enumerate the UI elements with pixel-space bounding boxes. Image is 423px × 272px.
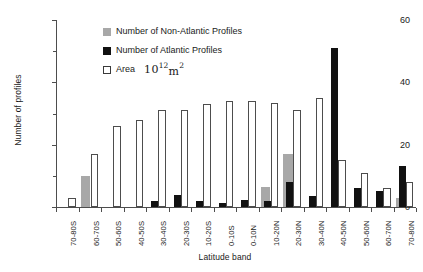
bar-band <box>283 20 301 207</box>
legend-label-nonatlantic: Number of Non-Atlantic Profiles <box>116 27 242 36</box>
y-tick <box>52 145 56 146</box>
bar-band <box>81 20 99 207</box>
bar-band <box>58 20 76 207</box>
bar-atlantic <box>196 201 203 207</box>
x-tick-label: 30-40N <box>318 220 326 246</box>
x-tick-label: 50-60S <box>115 221 123 246</box>
x-tick-label: 70-80N <box>408 220 416 246</box>
x-tick-label: 10-20S <box>205 221 213 246</box>
bar-atlantic <box>174 195 181 207</box>
bar-area <box>68 198 75 207</box>
bar-atlantic <box>331 48 338 207</box>
bar-atlantic <box>354 188 361 207</box>
legend-unit-annotation: 1012m2 <box>144 62 184 75</box>
annotation-unit: m <box>168 65 179 78</box>
x-tick <box>214 208 215 212</box>
x-tick <box>371 208 372 212</box>
bar-area <box>316 98 323 207</box>
legend-item-nonatlantic: Number of Non-Atlantic Profiles <box>103 22 242 41</box>
x-tick <box>304 208 305 212</box>
x-tick-label: 40-50S <box>138 221 146 246</box>
legend-label-atlantic: Number of Atlantic Profiles <box>116 46 222 55</box>
bar-atlantic <box>151 201 158 207</box>
annotation-exponent: 12 <box>159 61 169 70</box>
bar-atlantic <box>219 203 226 207</box>
x-tick-label: 30-40S <box>160 221 168 246</box>
y-axis-title: Number of profiles <box>13 45 23 175</box>
x-tick-label: 20-30S <box>183 221 191 246</box>
bar-atlantic <box>264 201 271 207</box>
y-tick <box>53 51 56 52</box>
bar-area <box>361 173 368 207</box>
legend-swatch-area-icon <box>103 66 111 74</box>
x-tick <box>349 208 350 212</box>
bar-area <box>383 188 390 207</box>
x-tick-label: 60-70S <box>93 221 101 246</box>
bar-band <box>306 20 324 207</box>
bar-band <box>261 20 279 207</box>
x-axis-title: Latitude band <box>55 252 395 262</box>
bar-area <box>293 110 300 207</box>
x-tick-label: 50-60N <box>363 220 371 246</box>
x-tick <box>281 208 282 212</box>
x-tick-label: 20-30N <box>295 220 303 246</box>
x-tick-label: 0-10N <box>250 225 258 246</box>
x-tick <box>79 208 80 212</box>
x-tick <box>259 208 260 212</box>
x-tick-label: 40-50N <box>340 220 348 246</box>
x-tick-label: 70-80S <box>70 221 78 246</box>
x-tick <box>191 208 192 212</box>
x-tick <box>169 208 170 212</box>
y-tick <box>52 82 56 83</box>
bar-area <box>406 182 413 207</box>
y-tick <box>53 176 56 177</box>
bar-area <box>248 101 255 207</box>
x-tick-label: 60-70N <box>385 220 393 246</box>
legend-swatch-nonatlantic-icon <box>103 28 111 36</box>
bar-atlantic <box>376 191 383 207</box>
chart-container: Number of profiles Latitude band 6040200… <box>0 0 423 272</box>
annotation-base: 10 <box>144 63 159 76</box>
bar-atlantic <box>286 182 293 207</box>
bar-area <box>136 120 143 207</box>
bar-band <box>373 20 391 207</box>
y-axis-line <box>56 20 57 208</box>
bar-area <box>158 110 165 207</box>
bar-atlantic <box>399 166 406 207</box>
bar-atlantic <box>309 196 316 207</box>
bar-area <box>271 103 278 207</box>
legend: Number of Non-Atlantic Profiles Number o… <box>103 22 242 79</box>
bar-band <box>328 20 346 207</box>
x-tick-label: 10-20N <box>273 220 281 246</box>
y-tick <box>53 114 56 115</box>
x-tick-label: 0-10S <box>228 225 236 246</box>
annotation-unit-exponent: 2 <box>179 61 184 70</box>
bar-non-atlantic <box>81 176 91 207</box>
bar-area <box>226 101 233 207</box>
x-tick <box>56 208 57 212</box>
y-tick <box>52 20 56 21</box>
x-tick <box>416 208 417 212</box>
bar-area <box>181 110 188 207</box>
bar-atlantic <box>241 200 248 207</box>
legend-item-atlantic: Number of Atlantic Profiles <box>103 41 242 60</box>
bar-area <box>113 126 120 207</box>
bar-area <box>203 104 210 207</box>
x-tick <box>101 208 102 212</box>
legend-item-area: Area 1012m2 <box>103 60 242 79</box>
bar-area <box>338 160 345 207</box>
x-tick <box>146 208 147 212</box>
bar-band <box>396 20 414 207</box>
x-tick <box>124 208 125 212</box>
bar-area <box>91 154 98 207</box>
x-tick <box>236 208 237 212</box>
x-tick <box>394 208 395 212</box>
legend-label-area: Area <box>116 65 135 74</box>
legend-swatch-atlantic-icon <box>103 47 111 55</box>
bar-band <box>351 20 369 207</box>
x-tick <box>326 208 327 212</box>
